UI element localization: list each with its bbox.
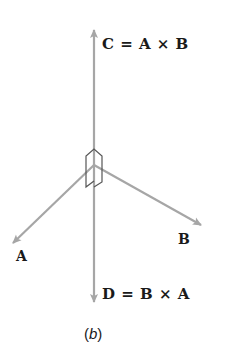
label-c-equation: C = A × B <box>102 37 189 52</box>
label-a: A <box>16 249 27 263</box>
vector-a-arrow <box>13 165 94 243</box>
figure-caption: (b) <box>84 326 102 341</box>
caption-close-paren: ) <box>97 325 102 342</box>
cross-product-diagram <box>0 0 226 360</box>
label-b: B <box>178 232 190 246</box>
vector-b-arrow <box>94 165 201 225</box>
label-d-equation: D = B × A <box>102 287 190 302</box>
